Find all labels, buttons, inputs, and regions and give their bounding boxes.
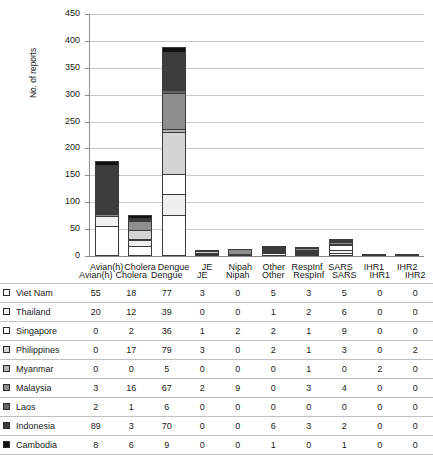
bar-stack [262,246,286,256]
country-label: Thailand [16,307,51,317]
bar-segment [95,226,119,256]
table-cell-value: 2 [256,341,292,360]
table-cell-value: 2 [362,360,398,379]
legend-entry: Indonesia [0,417,78,436]
bar-column[interactable] [195,14,219,256]
table-cell-value: 9 [149,436,185,455]
bar-column[interactable] [128,14,152,256]
table-row[interactable]: Thailand2012390012600 [0,303,433,322]
table-cell-value: 12 [114,303,150,322]
country-label: Malaysia [16,383,52,393]
table-col-header: RespInf [291,268,327,284]
y-axis-title: No. of reports [28,28,38,118]
table-cell-value: 3 [327,341,363,360]
legend-swatch-icon [3,289,10,296]
table-cell-value: 0 [185,436,221,455]
table-cell-value: 3 [291,417,327,436]
table-cell-value: 0 [362,322,398,341]
table-row[interactable]: Philippines017793021302 [0,341,433,360]
table-cell-value: 77 [149,284,185,303]
table-cell-value: 0 [327,398,363,417]
table-cell-value: 0 [398,379,433,398]
table-cell-value: 1 [291,341,327,360]
table-cell-value: 0 [114,360,150,379]
table-cell-value: 20 [78,303,114,322]
table-row[interactable]: Singapore02361221900 [0,322,433,341]
bar-stack [295,247,319,256]
table-cell-value: 89 [78,417,114,436]
table-row[interactable]: Viet Nam5518773053500 [0,284,433,303]
country-label: Viet Nam [16,288,53,298]
table-row[interactable]: Cambodia8690010100 [0,436,433,455]
bar-segment [162,52,186,90]
legend-entry: Laos [0,398,78,417]
bar-column[interactable] [395,14,419,256]
table-cell-value: 2 [114,322,150,341]
table-cell-value: 0 [185,398,221,417]
table-cell-value: 0 [398,398,433,417]
bar-column[interactable] [228,14,252,256]
bar-column[interactable] [329,14,353,256]
bar-column[interactable] [162,14,186,256]
table-cell-value: 0 [220,398,256,417]
table-cell-value: 3 [185,341,221,360]
legend-swatch-icon [3,441,10,448]
table-cell-value: 67 [149,379,185,398]
bar-stack [395,254,419,256]
bar-segment [128,230,152,239]
y-tick-value: 50 [70,223,80,233]
table-cell-value: 6 [114,436,150,455]
bar-segment [162,132,186,174]
table-col-header: IHR1 [362,268,398,284]
data-table-wrapper: Avian(h)CholeraDengueJENipahOtherRespInf… [0,268,433,455]
table-cell-value: 79 [149,341,185,360]
table-cell-value: 9 [220,379,256,398]
table-cell-value: 0 [256,379,292,398]
bar-segment [162,174,186,193]
gridline-0 [90,256,424,257]
bar-column[interactable] [362,14,386,256]
bar-column[interactable] [295,14,319,256]
table-cell-value: 1 [256,436,292,455]
table-row[interactable]: Indonesia893700063200 [0,417,433,436]
table-col-header: Nipah [220,268,256,284]
table-cell-value: 0 [398,417,433,436]
table-col-header: SARS [327,268,363,284]
table-row[interactable]: Malaysia316672903400 [0,379,433,398]
bar-column[interactable] [262,14,286,256]
table-cell-value: 0 [220,341,256,360]
legend-entry: Viet Nam [0,284,78,303]
bar-segment [162,194,186,215]
legend-entry: Malaysia [0,379,78,398]
table-cell-value: 0 [362,341,398,360]
table-cell-value: 0 [185,303,221,322]
table-cell-value: 2 [291,303,327,322]
table-cell-value: 0 [362,284,398,303]
legend-swatch-icon [3,384,10,391]
bar-stack [128,215,152,256]
table-cell-value: 0 [78,341,114,360]
bar-column[interactable] [95,14,119,256]
table-cell-value: 6 [256,417,292,436]
y-tick-value: 450 [65,8,80,18]
table-col-header-country [0,268,78,284]
legend-swatch-icon [3,403,10,410]
bar-segment [128,246,152,256]
table-cell-value: 0 [256,360,292,379]
table-col-header: Dengue [149,268,185,284]
bar-segment [162,215,186,256]
table-row[interactable]: Laos2160000000 [0,398,433,417]
table-cell-value: 3 [185,284,221,303]
bar-segment [162,93,186,129]
y-tick-value: 150 [65,169,80,179]
bar-stack [362,254,386,256]
legend-entry: Philippines [0,341,78,360]
table-cell-value: 2 [78,398,114,417]
table-cell-value: 0 [398,322,433,341]
table-cell-value: 0 [78,322,114,341]
table-cell-value: 1 [291,360,327,379]
table-row[interactable]: Myanmar0050001020 [0,360,433,379]
legend-swatch-icon [3,422,10,429]
data-table: Avian(h)CholeraDengueJENipahOtherRespInf… [0,268,433,455]
table-cell-value: 0 [78,360,114,379]
